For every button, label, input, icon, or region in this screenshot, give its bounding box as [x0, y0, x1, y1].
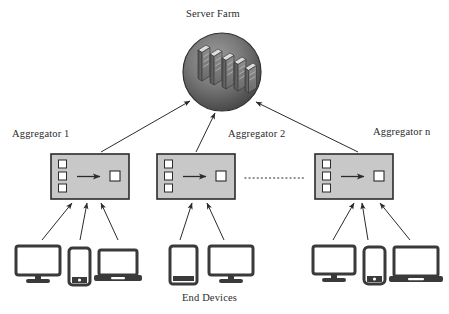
diagram-canvas [0, 0, 449, 314]
aggregator-n-label: Aggregator n [373, 126, 431, 137]
server-rack [198, 45, 210, 81]
server-rack [222, 53, 234, 89]
aggregator-1-node[interactable] [51, 154, 129, 199]
desktop-monitor-icon[interactable] [313, 246, 355, 282]
server-farm-node [183, 33, 261, 111]
device-to-aggregator-n-edges [333, 203, 410, 240]
aggregator-1-input-port [59, 184, 67, 192]
aggregator-n-input-port [323, 184, 331, 192]
smartphone-icon[interactable] [69, 248, 90, 285]
device-to-aggregator-2-edges [180, 203, 224, 240]
smartphone-icon[interactable] [364, 247, 385, 284]
aggregator-1-output-port [110, 171, 120, 181]
desktop-monitor-icon[interactable] [16, 246, 60, 283]
edge-device-to-agg2 [180, 203, 192, 240]
aggregator-n-input-port [323, 160, 331, 168]
edge-device-to-aggn [333, 203, 354, 240]
server-rack [210, 49, 222, 85]
end-devices-caption: End Devices [182, 292, 237, 303]
edge-device-to-agg1 [42, 203, 72, 240]
aggregator-2-output-port [216, 171, 226, 181]
aggregator-2-input-port [165, 184, 173, 192]
aggregator-1-input-port [59, 172, 67, 180]
edge-agg1-to-server [101, 101, 190, 152]
aggregator-2-input-port [165, 160, 173, 168]
aggregator-n-input-port [323, 172, 331, 180]
network-architecture-diagram: Server Farm Aggregator 1 Aggregator 2 Ag… [0, 0, 449, 314]
edge-device-to-agg1 [101, 203, 118, 240]
server-rack [245, 63, 257, 93]
edge-device-to-agg2 [207, 203, 224, 240]
end-device-group-2 [170, 246, 253, 284]
device-to-aggregator-1-edges [42, 203, 118, 240]
desktop-monitor-icon[interactable] [209, 246, 253, 283]
aggregator-1-input-port [59, 160, 67, 168]
edge-aggn-to-server [256, 102, 358, 152]
aggregator-2-node[interactable] [157, 154, 235, 199]
edge-agg2-to-server [196, 113, 215, 152]
aggregator-1-label: Aggregator 1 [12, 128, 70, 139]
aggregator-2-label: Aggregator 2 [228, 128, 286, 139]
server-farm-label: Server Farm [186, 8, 240, 19]
aggregator-2-input-port [165, 172, 173, 180]
edge-device-to-aggn [380, 203, 410, 240]
tablet-icon[interactable] [170, 246, 197, 284]
end-device-group-1 [16, 246, 142, 285]
aggregator-n-output-port [374, 171, 384, 181]
server-rack [234, 57, 246, 91]
end-device-group-3 [313, 246, 443, 284]
edge-device-to-agg1 [80, 203, 87, 240]
aggregator-n-node[interactable] [315, 154, 393, 199]
laptop-icon[interactable] [389, 247, 443, 282]
edge-device-to-aggn [362, 203, 368, 240]
laptop-icon[interactable] [94, 250, 142, 281]
